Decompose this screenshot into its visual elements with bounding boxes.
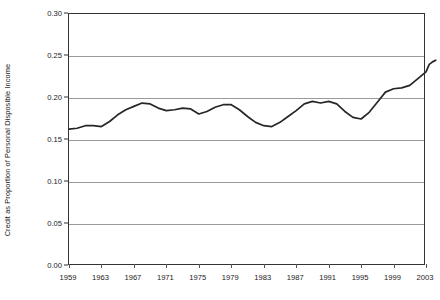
y-axis-tick-label: 0.15	[32, 135, 62, 144]
y-axis-tick-label: 0.00	[32, 261, 62, 270]
y-axis-tick-label: 0.20	[32, 93, 62, 102]
y-axis-tick-mark	[64, 97, 68, 98]
x-axis-tick-label: 1999	[384, 273, 401, 282]
y-axis-tick-mark	[64, 55, 68, 56]
x-axis-tick-mark	[361, 264, 362, 268]
x-axis-tick-mark	[329, 264, 330, 268]
x-axis-tick-mark	[231, 264, 232, 268]
x-axis-tick-mark	[296, 264, 297, 268]
y-axis-tick-label: 0.10	[32, 177, 62, 186]
x-axis-tick-mark	[394, 264, 395, 268]
line-chart: Credit as Proportion of Personal Disposi…	[0, 0, 440, 300]
x-axis-tick-label: 1967	[124, 273, 141, 282]
plot-area	[68, 13, 425, 265]
x-axis-tick-label: 1991	[319, 273, 336, 282]
y-axis-tick-label: 0.30	[32, 9, 62, 18]
x-axis-tick-mark	[264, 264, 265, 268]
x-axis-tick-mark	[166, 264, 167, 268]
x-axis-tick-label: 1959	[60, 273, 77, 282]
y-axis-tick-mark	[64, 265, 68, 266]
y-axis-tick-mark	[64, 139, 68, 140]
x-axis-tick-mark	[426, 264, 427, 268]
y-axis-title: Credit as Proportion of Personal Disposi…	[0, 0, 14, 300]
x-axis-tick-mark	[69, 264, 70, 268]
x-axis-tick-label: 1971	[157, 273, 174, 282]
x-axis-tick-mark	[134, 264, 135, 268]
data-series-layer	[69, 14, 426, 266]
x-axis-tick-mark	[101, 264, 102, 268]
y-axis-tick-mark	[64, 181, 68, 182]
x-axis-tick-label: 2003	[417, 273, 434, 282]
y-axis-tick-mark	[64, 223, 68, 224]
x-axis-tick-label: 1995	[352, 273, 369, 282]
x-axis-tick-label: 1987	[287, 273, 304, 282]
data-line	[69, 60, 436, 129]
x-axis-tick-label: 1975	[189, 273, 206, 282]
x-axis-tick-label: 1983	[254, 273, 271, 282]
x-axis-tick-label: 1963	[92, 273, 109, 282]
y-axis-tick-label: 0.05	[32, 219, 62, 228]
x-axis-tick-label: 1979	[222, 273, 239, 282]
y-axis-tick-label: 0.25	[32, 51, 62, 60]
x-axis-tick-mark	[199, 264, 200, 268]
y-axis-tick-mark	[64, 13, 68, 14]
